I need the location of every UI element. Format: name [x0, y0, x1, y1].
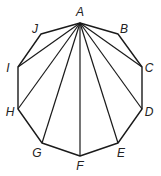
vertex-label-e: E — [117, 146, 126, 160]
vertex-label-f: F — [76, 159, 84, 173]
diagonal-a-e — [80, 23, 118, 143]
vertex-label-i: I — [6, 61, 10, 75]
vertex-label-a: A — [75, 5, 84, 19]
diagonal-a-d — [80, 23, 142, 109]
diagonal-a-g — [42, 23, 80, 143]
vertex-label-j: J — [31, 22, 39, 36]
vertex-label-c: C — [145, 61, 154, 75]
vertex-label-g: G — [32, 146, 41, 160]
diagonal-a-c — [80, 23, 142, 67]
diagonal-a-i — [18, 23, 80, 67]
diagonal-a-h — [18, 23, 80, 109]
vertex-label-h: H — [6, 105, 15, 119]
vertex-label-d: D — [145, 105, 154, 119]
vertex-label-b: B — [120, 22, 128, 36]
decagon-diagram: ABCDEFGHIJ — [0, 0, 161, 176]
